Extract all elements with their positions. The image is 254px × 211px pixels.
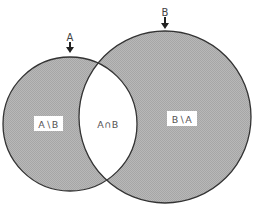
venn-diagram: A B A∖B A∩B B∖A (0, 0, 254, 211)
a-minus-b-label: A∖B (38, 119, 59, 130)
intersection-label: A∩B (97, 119, 118, 130)
set-a-label: A (67, 32, 74, 43)
b-minus-a-label: B∖A (172, 114, 193, 125)
arrow-down-icon (161, 17, 169, 29)
arrow-down-icon (66, 42, 74, 53)
set-b-label: B (162, 7, 169, 18)
